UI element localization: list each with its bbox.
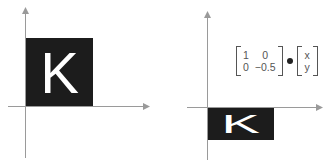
matrix-bracket-right <box>278 46 283 76</box>
right-panel: K 1 0 0 −0.5 x y <box>0 0 334 165</box>
matrix-a11: 1 <box>243 49 249 61</box>
letter-k-transformed: K <box>207 118 274 131</box>
input-vector: x y <box>302 49 313 73</box>
transformation-matrix: 1 0 0 −0.5 <box>241 49 278 73</box>
transformation-equation: 1 0 0 −0.5 x y <box>236 46 318 76</box>
vector-bracket-right <box>313 46 318 76</box>
y-axis-arrow-icon <box>204 11 211 18</box>
matrix-a22: −0.5 <box>255 61 276 73</box>
matrix-a21: 0 <box>243 61 249 73</box>
dot-product-icon <box>287 58 293 64</box>
matrix-a12: 0 <box>255 49 276 61</box>
vector-y: y <box>305 61 310 73</box>
right-axes <box>0 0 334 165</box>
x-axis-arrow-icon <box>316 104 323 111</box>
vector-x: x <box>305 49 310 61</box>
